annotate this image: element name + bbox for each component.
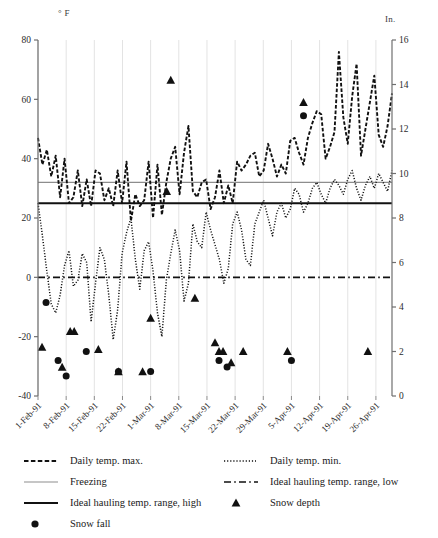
legend-label: Ideal hauling temp. range, high	[70, 497, 201, 508]
series-daily-temp-max	[38, 52, 392, 221]
legend-item-daily-temp-max: Daily temp. max.	[22, 452, 143, 469]
svg-text:12-Apr-91: 12-Apr-91	[291, 400, 325, 434]
svg-text:26-Apr-91: 26-Apr-91	[348, 400, 382, 434]
legend-item-snow-fall: Snow fall	[22, 515, 111, 532]
legend-item-daily-temp-min: Daily temp. min.	[222, 452, 341, 469]
legend-label: Daily temp. max.	[70, 455, 143, 466]
solid-black-line-icon	[22, 494, 70, 511]
svg-text:15-Feb-91: 15-Feb-91	[66, 400, 100, 434]
svg-text:60: 60	[22, 95, 32, 105]
svg-text:14: 14	[399, 80, 409, 90]
chart-legend: Daily temp. max. Freezing Ideal hauling …	[0, 452, 438, 538]
svg-text:2: 2	[399, 347, 404, 357]
legend-label: Ideal hauling temp. range, low	[270, 476, 398, 487]
left-axis: 806040200-20-40	[18, 35, 38, 401]
svg-text:29-Mar-91: 29-Mar-91	[234, 400, 269, 435]
legend-label: Snow fall	[70, 518, 111, 529]
bottom-axis-date-labels: 1-Feb-918-Feb-9115-Feb-9122-Feb-911-Mar-…	[13, 396, 381, 435]
svg-text:80: 80	[22, 35, 32, 45]
svg-text:1-Feb-91: 1-Feb-91	[13, 400, 43, 430]
legend-label: Snow depth	[270, 497, 320, 508]
right-axis: 1614121086420	[392, 35, 409, 401]
dash-dot-line-icon	[222, 473, 270, 490]
svg-text:1-Mar-91: 1-Mar-91	[125, 400, 156, 431]
filled-circle-marker-icon	[22, 515, 70, 532]
svg-text:19-Apr-91: 19-Apr-91	[319, 400, 353, 434]
legend-item-ideal-hauling-high: Ideal hauling temp. range, high	[22, 494, 201, 511]
left-axis-unit-label: ° F	[58, 8, 70, 18]
legend-label: Freezing	[70, 476, 107, 487]
filled-triangle-marker-icon	[222, 494, 270, 511]
svg-text:0: 0	[399, 391, 404, 401]
svg-text:16: 16	[399, 35, 409, 45]
svg-text:12: 12	[399, 124, 409, 134]
svg-text:22-Feb-91: 22-Feb-91	[94, 400, 128, 434]
legend-item-ideal-hauling-low: Ideal hauling temp. range, low	[222, 473, 398, 490]
svg-text:20: 20	[22, 213, 32, 223]
svg-text:-20: -20	[18, 332, 31, 342]
legend-label: Daily temp. min.	[270, 455, 341, 466]
svg-text:40: 40	[22, 154, 32, 164]
svg-text:-40: -40	[18, 391, 31, 401]
chart-page: ° F In. 806040200-20-40 1614121086420 1-…	[0, 0, 438, 538]
chart-plot-area: 806040200-20-40 1614121086420 1-Feb-918-…	[0, 0, 438, 452]
solid-gray-line-icon	[22, 473, 70, 490]
svg-text:6: 6	[399, 258, 404, 268]
svg-text:0: 0	[26, 273, 31, 283]
svg-text:10: 10	[399, 169, 409, 179]
dashed-line-icon	[22, 452, 70, 469]
right-axis-unit-label: In.	[385, 14, 396, 24]
legend-item-freezing: Freezing	[22, 473, 107, 490]
dotted-line-icon	[222, 452, 270, 469]
svg-text:4: 4	[399, 302, 404, 312]
legend-item-snow-depth: Snow depth	[222, 494, 320, 511]
svg-text:8: 8	[399, 213, 404, 223]
vertical-gridlines	[38, 40, 376, 396]
